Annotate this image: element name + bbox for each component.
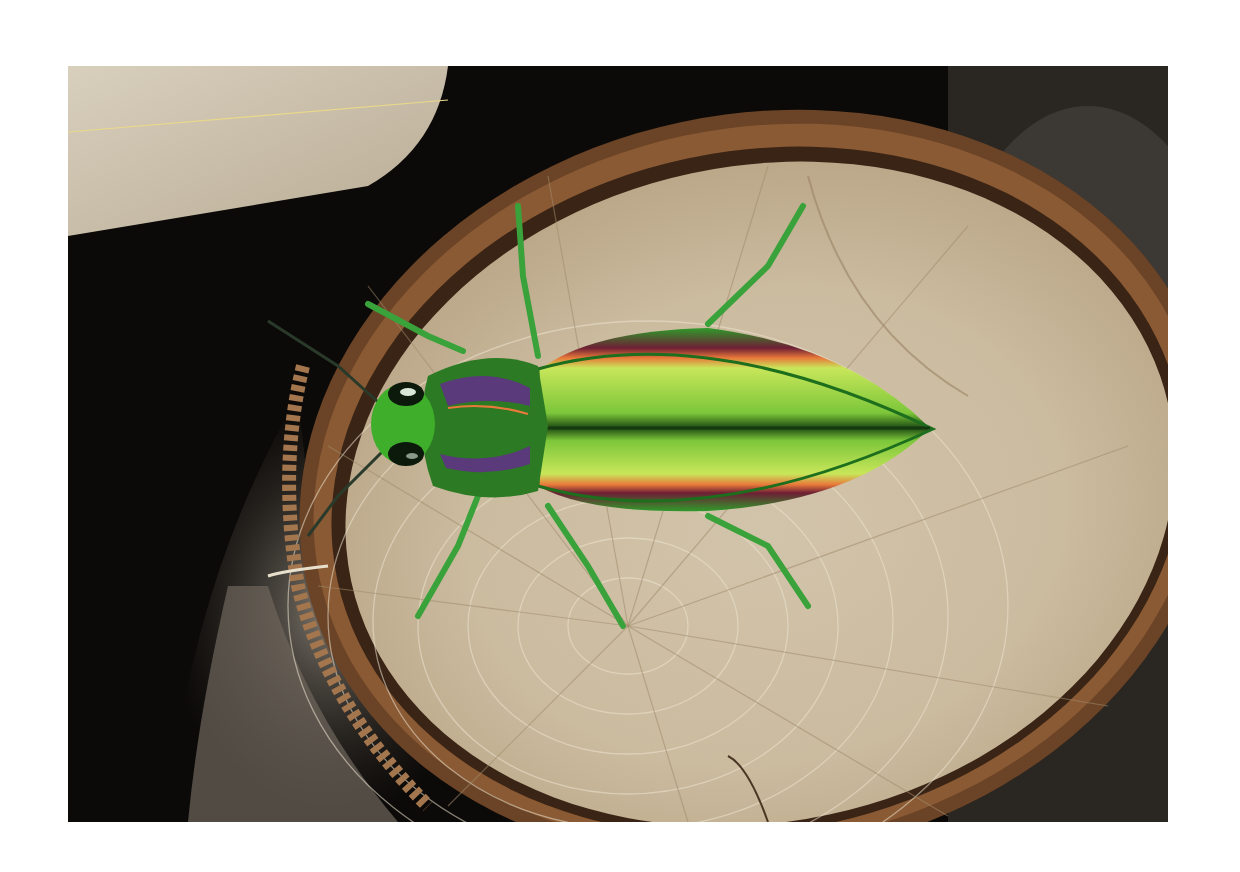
photograph: Iridescent green jewel beetle with red-p… xyxy=(68,66,1168,822)
beetle-on-log-illustration xyxy=(68,66,1168,822)
